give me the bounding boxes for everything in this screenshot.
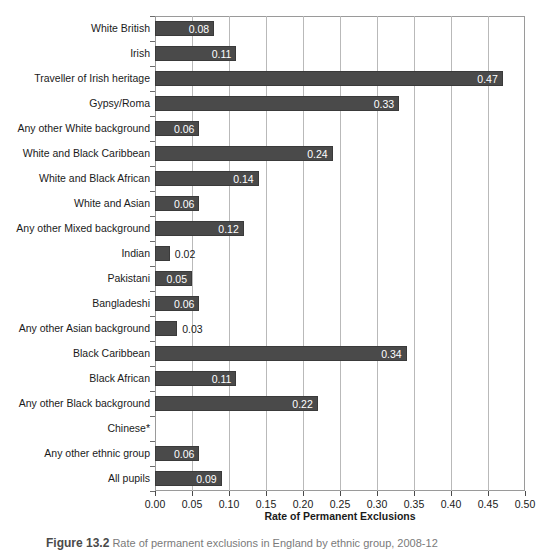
bar-row: 0.03	[155, 321, 525, 336]
bar	[155, 146, 333, 161]
bar	[155, 246, 170, 261]
bar-value-label: 0.14	[233, 173, 253, 184]
category-label: Chinese*	[0, 423, 150, 434]
bar-row: 0.47	[155, 71, 525, 86]
x-axis-tick-label: 0.15	[256, 499, 276, 510]
bar-value-label: 0.06	[174, 123, 194, 134]
caption-number: Figure 13.2	[46, 536, 109, 550]
category-label: All pupils	[0, 473, 150, 484]
bar-value-label: 0.33	[374, 98, 394, 109]
category-label: Any other Black background	[0, 398, 150, 409]
bar-row: 0.33	[155, 96, 525, 111]
category-label: Pakistani	[0, 273, 150, 284]
x-axis-tick	[414, 491, 415, 496]
x-axis-tick	[488, 491, 489, 496]
bar-value-label: 0.06	[174, 448, 194, 459]
category-axis-labels: White BritishIrishTraveller of Irish her…	[0, 16, 150, 491]
category-label: Irish	[0, 48, 150, 59]
bar-value-label: 0.34	[381, 348, 401, 359]
category-label: White and Asian	[0, 198, 150, 209]
category-label: Gypsy/Roma	[0, 98, 150, 109]
bar-row: 0.02	[155, 246, 525, 261]
bar	[155, 71, 503, 86]
bar-row	[155, 421, 525, 436]
x-axis-tick	[451, 491, 452, 496]
bar-value-label: 0.03	[182, 323, 202, 334]
bar	[155, 346, 407, 361]
bar-value-label: 0.11	[212, 48, 232, 59]
bar-value-label: 0.24	[307, 148, 327, 159]
x-axis-tick	[340, 491, 341, 496]
category-label: Any other White background	[0, 123, 150, 134]
bar-row: 0.09	[155, 471, 525, 486]
bar-row: 0.22	[155, 396, 525, 411]
bar-value-label: 0.06	[174, 298, 194, 309]
bar	[155, 96, 399, 111]
bars-group: 0.080.110.470.330.060.240.140.060.120.02…	[155, 16, 525, 491]
x-axis-tick	[266, 491, 267, 496]
category-label: White and Black Caribbean	[0, 148, 150, 159]
x-axis-tick	[192, 491, 193, 496]
x-axis-tick	[155, 491, 156, 496]
figure-container: White BritishIrishTraveller of Irish her…	[0, 0, 558, 551]
x-axis-tick-label: 0.10	[219, 499, 239, 510]
bar-value-label: 0.05	[167, 273, 187, 284]
bar-row: 0.24	[155, 146, 525, 161]
x-axis-tick-label: 0.40	[441, 499, 461, 510]
category-label: Bangladeshi	[0, 298, 150, 309]
x-axis-tick-label: 0.20	[293, 499, 313, 510]
figure-caption: Figure 13.2 Rate of permanent exclusions…	[46, 536, 546, 550]
x-axis-tick-label: 0.50	[515, 499, 535, 510]
bar-row: 0.11	[155, 371, 525, 386]
bar	[155, 321, 177, 336]
x-axis-tick-label: 0.05	[182, 499, 202, 510]
category-label: Black African	[0, 373, 150, 384]
x-axis-tick-label: 0.30	[367, 499, 387, 510]
category-label: White British	[0, 23, 150, 34]
category-label: Any other ethnic group	[0, 448, 150, 459]
x-axis-tick-label: 0.35	[404, 499, 424, 510]
category-label: Any other Mixed background	[0, 223, 150, 234]
bar-value-label: 0.08	[189, 23, 209, 34]
category-label: Black Caribbean	[0, 348, 150, 359]
bar-row: 0.34	[155, 346, 525, 361]
bar-row: 0.06	[155, 446, 525, 461]
bar-row: 0.14	[155, 171, 525, 186]
bar-value-label: 0.12	[218, 223, 238, 234]
x-axis-tick	[525, 491, 526, 496]
bar-value-label: 0.09	[196, 473, 216, 484]
bar-row: 0.06	[155, 296, 525, 311]
x-axis-tick-label: 0.25	[330, 499, 350, 510]
bar-value-label: 0.06	[174, 198, 194, 209]
x-axis-tick	[377, 491, 378, 496]
bar-row: 0.11	[155, 46, 525, 61]
bar-value-label: 0.02	[175, 248, 195, 259]
x-axis-tick-label: 0.45	[478, 499, 498, 510]
x-axis-title: Rate of Permanent Exclusions	[155, 510, 525, 522]
bar-value-label: 0.11	[212, 373, 232, 384]
bar-row: 0.06	[155, 121, 525, 136]
bar-row: 0.12	[155, 221, 525, 236]
category-label: White and Black African	[0, 173, 150, 184]
x-axis-tick	[229, 491, 230, 496]
bar-row: 0.05	[155, 271, 525, 286]
bar-value-label: 0.47	[477, 73, 497, 84]
x-axis-tick-label: 0.00	[145, 499, 165, 510]
category-label: Indian	[0, 248, 150, 259]
x-axis-tick	[303, 491, 304, 496]
bar-chart: White BritishIrishTraveller of Irish her…	[0, 0, 558, 500]
bar-value-label: 0.22	[292, 398, 312, 409]
bar-row: 0.08	[155, 21, 525, 36]
category-label: Any other Asian background	[0, 323, 150, 334]
bar-row: 0.06	[155, 196, 525, 211]
category-label: Traveller of Irish heritage	[0, 73, 150, 84]
caption-text: Rate of permanent exclusions in England …	[112, 537, 437, 549]
